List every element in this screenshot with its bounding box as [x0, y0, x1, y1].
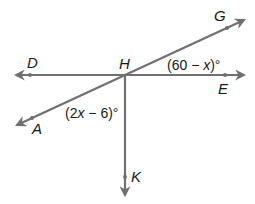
point-d-dot — [28, 73, 32, 77]
angle-ahk-minus: − — [88, 105, 96, 121]
label-h: H — [119, 55, 130, 72]
label-a: A — [31, 120, 42, 137]
geometry-diagram: D H G E A K (60 − x)° (2x − 6)° — [0, 0, 255, 204]
label-e: E — [218, 80, 229, 97]
angle-label-ahk: (2x − 6)° — [65, 105, 118, 121]
point-e-dot — [223, 73, 227, 77]
label-k: K — [131, 168, 142, 185]
point-g-dot — [225, 26, 229, 30]
point-k-dot — [123, 175, 127, 179]
angle-ghe-minus: − — [191, 57, 199, 73]
angle-ghe-part: (60 — [167, 57, 191, 73]
label-g: G — [214, 7, 226, 24]
angle-ghe-close: )° — [210, 57, 220, 73]
diagram-svg: D H G E A K (60 − x)° (2x − 6)° — [0, 0, 255, 204]
angle-label-ghe: (60 − x)° — [167, 57, 220, 73]
angle-ahk-open: (2 — [65, 105, 78, 121]
label-d: D — [27, 54, 38, 71]
angle-ahk-close: 6)° — [97, 105, 119, 121]
